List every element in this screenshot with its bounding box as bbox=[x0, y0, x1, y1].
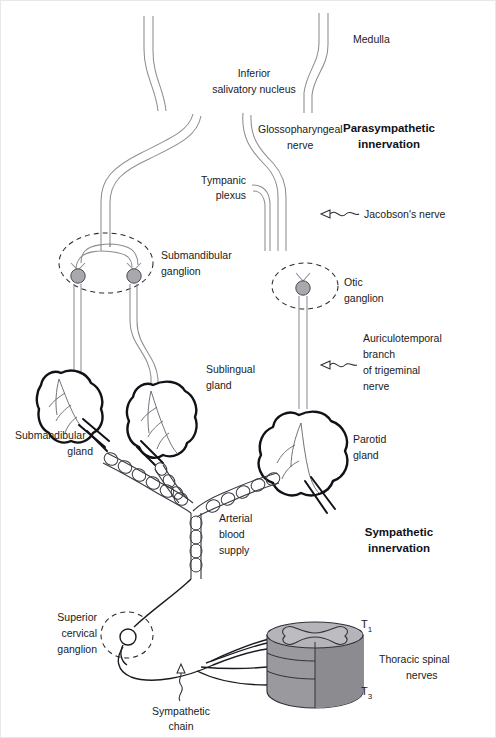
postganglionic-sympathetic-fibre bbox=[134, 579, 191, 627]
label-glossopharyngeal-nerve-1: Glossopharyngeal bbox=[258, 123, 343, 135]
parotid-gland bbox=[259, 412, 348, 513]
otic-ganglion-group bbox=[272, 263, 338, 309]
label-parotid-gland-2: gland bbox=[353, 449, 379, 461]
label-sympathetic-chain-1: Sympathetic bbox=[152, 705, 210, 717]
heading-parasympathetic-1: Parasympathetic bbox=[343, 122, 436, 134]
label-auriculotemporal-2: branch bbox=[363, 348, 395, 360]
label-medulla: Medulla bbox=[353, 33, 390, 45]
medulla-nerve-trunk-right bbox=[304, 13, 328, 113]
inferior-salivatory-nucleus-trunk-left bbox=[144, 16, 166, 111]
sympathetic-coil-trunk bbox=[190, 516, 202, 572]
diagram-canvas: Medulla Inferior salivatory nucleus Glos… bbox=[1, 1, 496, 738]
heading-sympathetic-2: innervation bbox=[368, 542, 430, 554]
submandibular-ganglion-group bbox=[59, 233, 153, 293]
arterial-blood-supply bbox=[102, 450, 282, 579]
label-arterial-supply-1: Arterial bbox=[219, 512, 252, 524]
label-thoracic-spinal-nerves-1: Thoracic spinal bbox=[379, 653, 450, 665]
superior-cervical-ganglion-cell bbox=[120, 629, 136, 645]
label-spinal-level-t1: T1 bbox=[361, 618, 373, 634]
heading-sympathetic-1: Sympathetic bbox=[365, 526, 434, 538]
label-submandibular-ganglion-2: ganglion bbox=[161, 265, 201, 277]
otic-ganglion-cell bbox=[296, 281, 310, 295]
label-sublingual-gland-2: gland bbox=[206, 379, 232, 391]
tympanic-plexus-branch bbox=[252, 185, 270, 251]
label-otic-ganglion-1: Otic bbox=[344, 276, 363, 288]
label-otic-ganglion-2: ganglion bbox=[344, 292, 384, 304]
sublingual-gland bbox=[127, 382, 197, 465]
anatomy-figure: Medulla Inferior salivatory nucleus Glos… bbox=[0, 0, 496, 738]
label-spinal-level-t3: T3 bbox=[361, 685, 373, 701]
label-superior-cervical-ganglion-2: cervical bbox=[61, 627, 97, 639]
submandibular-ganglion-cell-right bbox=[127, 269, 141, 283]
label-arterial-supply-3: supply bbox=[219, 544, 250, 556]
label-submandibular-gland-2: gland bbox=[67, 445, 93, 457]
label-superior-cervical-ganglion-1: Superior bbox=[57, 611, 97, 623]
postganglionic-parotid-fibre bbox=[293, 296, 313, 422]
label-glossopharyngeal-nerve-2: nerve bbox=[287, 139, 313, 151]
heading-parasympathetic-2: innervation bbox=[358, 138, 420, 150]
label-parotid-gland-1: Parotid bbox=[353, 433, 386, 445]
label-thoracic-spinal-nerves-2: nerves bbox=[406, 669, 438, 681]
label-inferior-salivatory-nucleus-1: Inferior bbox=[238, 67, 271, 79]
auriculotemporal-pointer bbox=[321, 361, 357, 369]
sympathetic-chain-pointer bbox=[177, 664, 185, 701]
label-auriculotemporal-4: nerve bbox=[363, 380, 389, 392]
label-submandibular-gland-1: Submandibular bbox=[15, 429, 86, 441]
label-auriculotemporal-3: of trigeminal bbox=[363, 364, 420, 376]
label-tympanic-plexus-1: Tympanic bbox=[201, 174, 246, 186]
superior-cervical-ganglion-group bbox=[101, 612, 153, 665]
label-auriculotemporal-1: Auriculotemporal bbox=[363, 332, 442, 344]
label-jacobsons-nerve: Jacobson's nerve bbox=[364, 208, 446, 220]
chorda-tympani-left-trunk bbox=[101, 114, 201, 247]
thoracic-spinal-cord bbox=[267, 622, 363, 708]
label-inferior-salivatory-nucleus-2: salivatory nucleus bbox=[212, 83, 295, 95]
submandibular-ganglion-cell-left bbox=[71, 269, 85, 283]
submandibular-ganglion-ring bbox=[59, 233, 153, 293]
label-superior-cervical-ganglion-3: ganglion bbox=[57, 643, 97, 655]
sympathetic-chain bbox=[118, 639, 269, 685]
jacobsons-nerve-pointer bbox=[321, 210, 359, 218]
label-submandibular-ganglion-1: Submandibular bbox=[161, 249, 232, 261]
label-sympathetic-chain-2: chain bbox=[168, 720, 193, 732]
label-arterial-supply-2: blood bbox=[219, 528, 245, 540]
label-sublingual-gland-1: Sublingual bbox=[206, 363, 255, 375]
label-tympanic-plexus-2: plexus bbox=[216, 189, 246, 201]
